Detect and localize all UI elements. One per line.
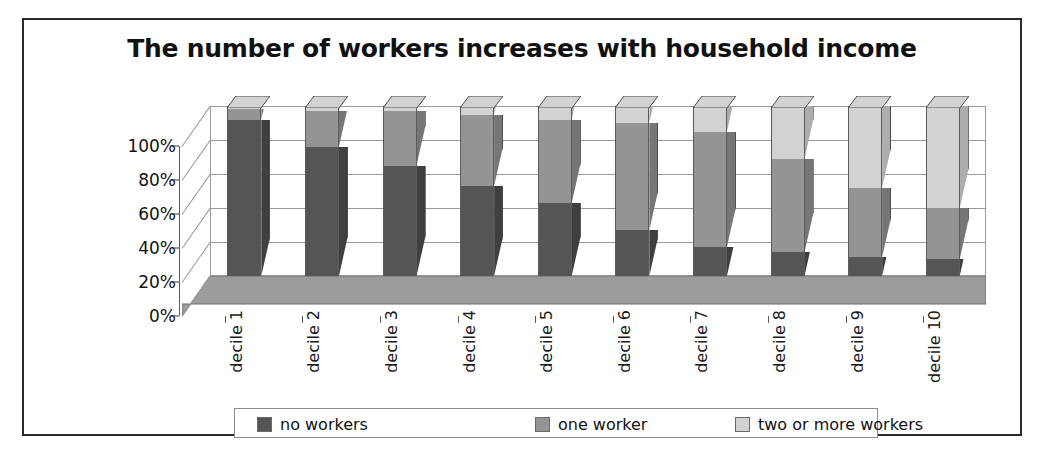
bar-top-face	[460, 94, 503, 106]
bar-segment-two-or-more-workers[interactable]	[693, 106, 727, 132]
bar-segment-one-worker[interactable]	[771, 159, 805, 253]
bar-segment-side-face	[417, 166, 426, 277]
bar-stack	[926, 106, 960, 276]
bar-column[interactable]	[771, 106, 813, 276]
bar-stack	[771, 106, 805, 276]
bar-segment-side-face	[572, 203, 581, 276]
bar-top-face	[615, 94, 658, 106]
bar-stack	[305, 106, 339, 276]
bar-segment-one-worker[interactable]	[227, 109, 261, 119]
bar-column[interactable]	[615, 106, 657, 276]
x-axis-label-decile-2: decile 2	[304, 310, 323, 400]
bar-segment-two-or-more-workers[interactable]	[615, 106, 649, 123]
y-axis-tick-label: 60%	[112, 204, 176, 224]
bar-segment-no-workers[interactable]	[305, 147, 339, 276]
bar-segment-side-face	[572, 106, 581, 120]
y-axis-tick-mark	[172, 180, 179, 181]
bar-column[interactable]	[460, 106, 502, 276]
bar-column[interactable]	[693, 106, 735, 276]
legend-swatch-icon	[535, 417, 550, 432]
bar-segment-side-face	[805, 252, 814, 276]
bar-segment-side-face	[649, 123, 658, 230]
x-axis-label-decile-3: decile 3	[382, 310, 401, 400]
bar-stack	[848, 106, 882, 276]
bar-segment-no-workers[interactable]	[615, 230, 649, 276]
chart-page-frame: The number of workers increases with hou…	[22, 18, 1022, 436]
x-axis-label-decile-10: decile 10	[925, 310, 944, 400]
bar-segment-one-worker[interactable]	[460, 115, 494, 186]
y-axis-tick-mark	[172, 282, 179, 283]
bar-column[interactable]	[926, 106, 968, 276]
bar-column[interactable]	[227, 106, 269, 276]
bar-stack	[615, 106, 649, 276]
bar-stack	[538, 106, 572, 276]
plot-area: 0%20%40%60%80%100%	[106, 106, 986, 316]
y-axis-tick-label: 80%	[112, 170, 176, 190]
x-axis-label-decile-1: decile 1	[227, 310, 246, 400]
y-axis-tick-label: 100%	[112, 136, 176, 156]
bar-segment-one-worker[interactable]	[538, 120, 572, 203]
legend-label: one worker	[558, 415, 647, 434]
bar-top-face	[383, 94, 426, 106]
x-axis-label-decile-8: decile 8	[770, 310, 789, 400]
bar-segment-side-face	[960, 208, 969, 259]
bar-column[interactable]	[383, 106, 425, 276]
bar-segment-side-face	[882, 188, 891, 258]
bar-stack	[383, 106, 417, 276]
bar-segment-one-worker[interactable]	[305, 111, 339, 147]
bar-stack	[460, 106, 494, 276]
legend-label: no workers	[280, 415, 368, 434]
bar-segment-side-face	[649, 106, 658, 123]
y-axis-tick-label: 20%	[112, 272, 176, 292]
legend-item[interactable]: two or more workers	[735, 414, 923, 434]
bar-segment-two-or-more-workers[interactable]	[926, 106, 960, 208]
bar-segment-one-worker[interactable]	[383, 111, 417, 165]
bar-segment-no-workers[interactable]	[460, 186, 494, 276]
bar-segment-side-face	[494, 186, 503, 276]
x-axis-label-decile-4: decile 4	[460, 310, 479, 400]
bar-segment-side-face	[572, 120, 581, 203]
bar-segment-side-face	[882, 257, 891, 276]
bar-stack	[693, 106, 727, 276]
bar-top-face	[848, 94, 891, 106]
bar-column[interactable]	[848, 106, 890, 276]
bar-segment-side-face	[727, 132, 736, 248]
bar-segment-one-worker[interactable]	[693, 132, 727, 248]
bar-segment-no-workers[interactable]	[926, 259, 960, 276]
y-axis-tick-mark	[172, 248, 179, 249]
chart-legend: no workersone workertwo or more workers	[234, 408, 878, 438]
bar-segment-two-or-more-workers[interactable]	[848, 106, 882, 188]
bar-top-face	[227, 94, 270, 106]
bar-segment-no-workers[interactable]	[383, 166, 417, 277]
bar-segment-no-workers[interactable]	[538, 203, 572, 276]
bar-segment-side-face	[261, 109, 270, 119]
bar-segment-two-or-more-workers[interactable]	[538, 106, 572, 120]
x-axis-labels: decile 1decile 2decile 3decile 4decile 5…	[106, 316, 986, 402]
legend-item[interactable]: no workers	[257, 414, 368, 434]
bar-segment-no-workers[interactable]	[848, 257, 882, 276]
x-axis-label-decile-6: decile 6	[615, 310, 634, 400]
bar-column[interactable]	[538, 106, 580, 276]
bar-segment-no-workers[interactable]	[771, 252, 805, 276]
bar-segment-side-face	[649, 230, 658, 276]
bar-segment-side-face	[494, 115, 503, 186]
chart-title: The number of workers increases with hou…	[24, 34, 1020, 63]
bar-segment-no-workers[interactable]	[693, 247, 727, 276]
bar-segment-side-face	[960, 106, 969, 208]
bar-segment-side-face	[417, 111, 426, 165]
bar-top-face	[926, 94, 969, 106]
bar-segment-one-worker[interactable]	[615, 123, 649, 230]
bar-segment-side-face	[960, 259, 969, 276]
bar-top-face	[538, 94, 581, 106]
bar-column[interactable]	[305, 106, 347, 276]
bar-segment-one-worker[interactable]	[848, 188, 882, 258]
bar-segment-two-or-more-workers[interactable]	[771, 106, 805, 159]
y-axis-tick-mark	[172, 214, 179, 215]
legend-item[interactable]: one worker	[535, 414, 647, 434]
bar-segment-no-workers[interactable]	[227, 120, 261, 276]
y-axis: 0%20%40%60%80%100%	[106, 106, 176, 276]
bar-group	[210, 106, 986, 316]
bar-segment-one-worker[interactable]	[926, 208, 960, 259]
x-axis-label-decile-9: decile 9	[848, 310, 867, 400]
bar-segment-side-face	[805, 159, 814, 253]
